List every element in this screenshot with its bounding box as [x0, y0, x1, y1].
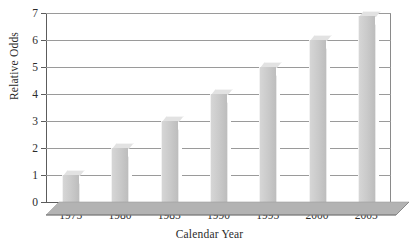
x-tick-label-1980: 1980 [108, 209, 131, 221]
y-tick-label-2: 2 [32, 142, 38, 154]
bar-1990 [210, 94, 227, 202]
bar-front-face [62, 175, 79, 202]
x-tick-label-1995: 1995 [256, 209, 279, 221]
x-tick-label-1990: 1990 [207, 209, 230, 221]
bar-2000 [309, 40, 326, 202]
y-tick-label-7: 7 [32, 7, 38, 19]
y-tick-mark [41, 67, 46, 68]
x-tick-mark [145, 202, 146, 207]
x-tick-mark [95, 202, 96, 207]
x-tick-label-1985: 1985 [158, 209, 181, 221]
y-tick-label-5: 5 [32, 61, 38, 73]
gridline-7 [46, 13, 391, 14]
bar-front-face [111, 148, 128, 202]
y-tick-mark [41, 148, 46, 149]
bar-side-face [326, 46, 330, 211]
bar-front-face [358, 16, 375, 202]
x-tick-mark [194, 202, 195, 207]
y-axis-title: Relative Odds [8, 6, 20, 126]
bar-side-face [227, 100, 231, 211]
plot-area: 01234567 1975198019851990199520002005 [46, 13, 391, 202]
bar-front-face [161, 121, 178, 202]
bar-front-face [210, 94, 227, 202]
x-tick-mark [342, 202, 343, 207]
gridline-6 [46, 40, 391, 41]
bar-side-face [128, 154, 132, 211]
y-tick-label-4: 4 [32, 88, 38, 100]
bar-1985 [161, 121, 178, 202]
y-tick-mark [41, 175, 46, 176]
bar-side-face [178, 127, 182, 211]
bar-1980 [111, 148, 128, 202]
x-tick-mark [243, 202, 244, 207]
y-tick-mark [41, 40, 46, 41]
y-tick-mark [41, 202, 46, 203]
bar-2005 [358, 16, 375, 202]
x-tick-label-2000: 2000 [306, 209, 329, 221]
y-tick-mark [41, 94, 46, 95]
y-tick-label-6: 6 [32, 34, 38, 46]
bar-side-face [375, 22, 379, 211]
bar-front-face [309, 40, 326, 202]
y-tick-label-0: 0 [32, 196, 38, 208]
y-tick-mark [41, 13, 46, 14]
x-tick-mark [292, 202, 293, 207]
gridline-5 [46, 67, 391, 68]
bar-1995 [259, 67, 276, 202]
bar-front-face [259, 67, 276, 202]
x-axis-title: Calendar Year [0, 228, 419, 240]
relative-odds-bar-chart: Relative Odds 01234567 19751980198519901… [0, 0, 419, 250]
y-tick-label-3: 3 [32, 115, 38, 127]
bar-side-face [79, 181, 83, 211]
bar-side-face [276, 73, 280, 211]
y-tick-mark [41, 121, 46, 122]
x-tick-label-1975: 1975 [59, 209, 82, 221]
gridline-0 [46, 202, 391, 203]
bar-1975 [62, 175, 79, 202]
x-tick-label-2005: 2005 [355, 209, 378, 221]
y-tick-label-1: 1 [32, 169, 38, 181]
